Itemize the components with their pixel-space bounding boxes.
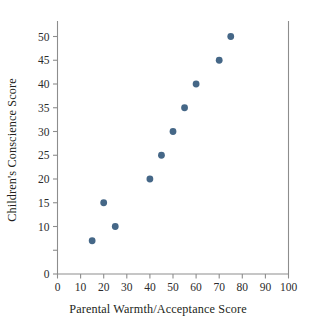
x-tick-label: 70 — [213, 281, 225, 293]
data-point — [193, 81, 200, 88]
y-tick-label: 40 — [38, 78, 50, 90]
y-axis-title: Children's Conscience Score — [5, 78, 19, 222]
data-point — [112, 223, 119, 230]
y-tick-label: 50 — [38, 31, 50, 43]
x-tick-label: 40 — [144, 281, 156, 293]
scatter-plot-figure: 0102030405060708090100 01015202530354045… — [0, 0, 317, 329]
x-tick-label: 80 — [237, 281, 249, 293]
data-point — [181, 104, 188, 111]
data-point — [147, 176, 154, 183]
data-point — [89, 237, 96, 244]
y-tick-label: 15 — [38, 197, 50, 209]
data-point — [227, 33, 234, 40]
x-tick-label: 60 — [190, 281, 202, 293]
x-tick-label: 100 — [280, 281, 298, 293]
y-tick-label: 25 — [38, 149, 50, 161]
x-tick-label: 20 — [98, 281, 110, 293]
x-tick-label: 90 — [260, 281, 272, 293]
x-axis-title: Parental Warmth/Acceptance Score — [69, 302, 247, 316]
x-tick-label: 10 — [75, 281, 87, 293]
data-point — [216, 57, 223, 64]
y-tick-label: 35 — [38, 102, 50, 114]
y-tick-label: 45 — [38, 54, 50, 66]
data-point — [158, 152, 165, 159]
plot-canvas: 0102030405060708090100 01015202530354045… — [0, 0, 317, 329]
data-point — [100, 199, 107, 206]
y-tick-label: 10 — [38, 221, 50, 233]
x-tick-label: 50 — [167, 281, 179, 293]
y-tick-label: 30 — [38, 126, 50, 138]
x-tick-label: 30 — [121, 281, 133, 293]
y-tick-label: 0 — [44, 268, 50, 280]
x-tick-label: 0 — [55, 281, 61, 293]
y-tick-label: 20 — [38, 173, 50, 185]
data-point — [170, 128, 177, 135]
